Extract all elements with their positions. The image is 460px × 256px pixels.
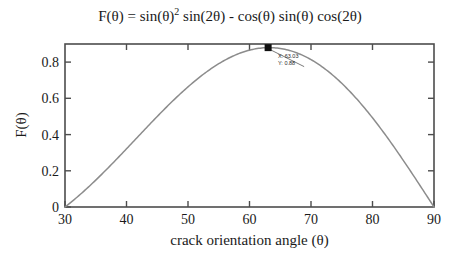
x-tick-label: 90 [427,212,441,227]
x-tick-label: 50 [181,212,195,227]
y-tick-label: 0 [52,200,59,215]
y-tick-label: 0.2 [42,164,60,179]
y-tick-label: 0.6 [42,91,60,106]
x-tick-label: 30 [58,212,72,227]
figure-container: F(θ) = sin(θ)2 sin(2θ) - cos(θ) sin(θ) c… [0,0,460,256]
y-tick-label: 0.8 [42,55,60,70]
x-tick-label: 60 [243,212,257,227]
y-axis-title: F(θ) [13,112,30,138]
data-cursor-marker[interactable] [265,44,272,51]
y-tick-labels: 0 0.2 0.4 0.6 0.8 [42,55,60,215]
x-tick-labels: 30 40 50 60 70 80 90 [58,212,441,227]
data-cursor-y-label: Y: 0.88 [278,60,295,66]
y-tick-label: 0.4 [42,128,60,143]
plot-area: 30 40 50 60 70 80 90 0 0.2 0.4 0.6 0.8 c… [0,0,460,256]
x-tick-label: 70 [304,212,318,227]
data-cursor-x-label: X: 63.03 [278,53,299,59]
x-axis-title: crack orientation angle (θ) [170,232,328,249]
x-tick-label: 80 [366,212,380,227]
x-tick-label: 40 [120,212,134,227]
